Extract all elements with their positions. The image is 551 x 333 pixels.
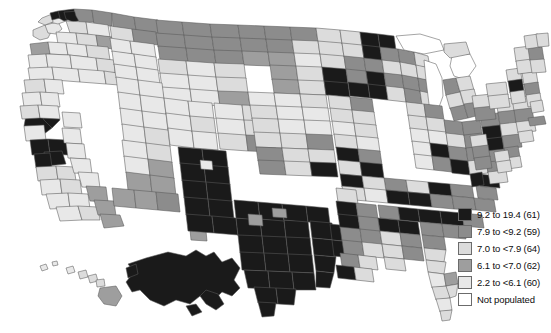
legend-swatch-3 xyxy=(458,259,472,272)
legend-label-3: 6.1 to <7.0 (62) xyxy=(477,259,540,272)
legend-label-0: 9.2 to 19.4 (61) xyxy=(477,208,540,221)
legend-item-4: 2.2 to <6.1 (60) xyxy=(458,275,551,290)
legend-item-2: 7.0 to <7.9 (64) xyxy=(458,241,551,256)
choropleth-map-figure: 9.2 to 19.4 (61) 7.9 to <9.2 (59) 7.0 to… xyxy=(0,0,551,333)
legend-label-1: 7.9 to <9.2 (59) xyxy=(477,225,540,238)
legend-item-3: 6.1 to <7.0 (62) xyxy=(458,258,551,273)
legend-item-1: 7.9 to <9.2 (59) xyxy=(458,224,551,239)
legend-label-2: 7.0 to <7.9 (64) xyxy=(477,242,540,255)
legend-swatch-2 xyxy=(458,242,472,255)
legend-swatch-0 xyxy=(458,208,472,221)
legend-item-0: 9.2 to 19.4 (61) xyxy=(458,207,551,222)
legend-swatch-4 xyxy=(458,276,472,289)
legend-swatch-5 xyxy=(458,293,472,306)
legend-label-5: Not populated xyxy=(477,293,535,306)
legend-label-4: 2.2 to <6.1 (60) xyxy=(477,276,540,289)
legend-swatch-1 xyxy=(458,225,472,238)
legend-item-5: Not populated xyxy=(458,292,551,307)
map-legend: 9.2 to 19.4 (61) 7.9 to <9.2 (59) 7.0 to… xyxy=(458,207,551,307)
